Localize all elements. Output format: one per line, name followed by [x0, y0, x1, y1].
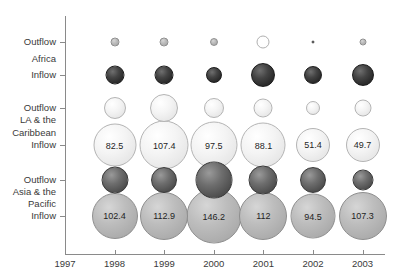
bubble-africa-outflow-1998	[110, 38, 119, 47]
y-axis-label-asia-inflow: Inflow	[31, 211, 56, 221]
bubble-la-the-caribbean-outflow-2003	[354, 100, 371, 117]
bubble-la-the-caribbean-inflow-2002: 51.4	[296, 128, 330, 162]
bubble-value-label: 97.5	[205, 140, 223, 150]
bubble-africa-outflow-1999	[160, 38, 169, 47]
bubble-asia-the-pacific-outflow-1998	[101, 167, 128, 194]
x-axis-tick	[164, 250, 165, 255]
bubble-asia-the-pacific-inflow-2003: 107.3	[339, 192, 387, 240]
x-axis-label-2001: 2001	[253, 258, 274, 269]
bubble-value-label: 112	[256, 211, 270, 221]
x-axis-tick	[115, 250, 116, 255]
region-label-lac-line1: LA & the	[20, 115, 56, 125]
bubble-asia-the-pacific-inflow-1999: 112.9	[140, 192, 188, 240]
bubble-asia-the-pacific-outflow-2000	[195, 162, 232, 199]
bubble-asia-the-pacific-inflow-2002: 94.5	[291, 194, 336, 239]
y-axis-tick	[60, 75, 65, 76]
region-label-africa: Africa	[32, 54, 56, 64]
x-axis-tick	[263, 250, 264, 255]
region-label-lac-line2: Caribbean	[12, 128, 56, 138]
bubble-africa-outflow-2002	[312, 41, 315, 44]
region-label-asia-line2: Pacific	[28, 199, 56, 209]
bubble-africa-inflow-2000	[206, 67, 222, 83]
y-axis-label-asia-outflow: Outflow	[24, 175, 56, 185]
bubble-asia-the-pacific-outflow-1999	[151, 167, 177, 193]
bubble-value-label: 102.4	[103, 211, 126, 221]
bubble-asia-the-pacific-inflow-1998: 102.4	[92, 193, 138, 239]
bubble-asia-the-pacific-outflow-2002	[300, 167, 326, 193]
x-axis-label-2000: 2000	[203, 258, 224, 269]
bubble-africa-inflow-2003	[352, 64, 374, 86]
x-axis-label-2003: 2003	[352, 258, 373, 269]
bubble-africa-inflow-1999	[155, 66, 174, 85]
y-axis-tick	[60, 108, 65, 109]
bubble-africa-inflow-1998	[105, 66, 124, 85]
bubble-la-the-caribbean-outflow-1998	[104, 97, 126, 119]
x-axis-tick	[214, 250, 215, 255]
y-axis-line	[65, 16, 66, 255]
region-label-asia-line1: Asia & the	[13, 187, 56, 197]
bubble-value-label: 88.1	[255, 140, 273, 150]
y-axis-tick	[60, 145, 65, 146]
bubble-value-label: 94.5	[304, 211, 322, 221]
x-axis-tick	[313, 250, 314, 255]
bubble-la-the-caribbean-outflow-2002	[306, 101, 320, 115]
bubble-value-label: 107.3	[351, 211, 374, 221]
bubble-africa-outflow-2003	[359, 39, 366, 46]
x-axis-label-1998: 1998	[104, 258, 125, 269]
bubble-value-label: 82.5	[106, 140, 124, 150]
y-axis-label-africa-outflow: Outflow	[24, 37, 56, 47]
bubble-africa-outflow-2000	[210, 38, 218, 46]
bubble-value-label: 112.9	[153, 211, 175, 221]
x-axis-tick	[363, 250, 364, 255]
x-axis-line	[65, 254, 385, 255]
y-axis-label-lac-inflow: Inflow	[31, 140, 56, 150]
y-axis-tick	[60, 216, 65, 217]
x-axis-tick	[65, 250, 66, 255]
x-axis-label-2002: 2002	[302, 258, 323, 269]
bubble-la-the-caribbean-outflow-2001	[254, 99, 273, 118]
x-axis-label-1999: 1999	[154, 258, 175, 269]
y-axis-tick	[60, 42, 65, 43]
bubble-asia-the-pacific-inflow-2001: 112	[239, 192, 287, 240]
bubble-value-label: 51.4	[304, 140, 322, 150]
bubble-la-the-caribbean-inflow-2003: 49.7	[346, 128, 380, 162]
bubble-asia-the-pacific-outflow-2003	[352, 170, 373, 191]
bubble-la-the-caribbean-inflow-2001: 88.1	[241, 123, 286, 168]
bubble-la-the-caribbean-inflow-1998: 82.5	[93, 124, 136, 167]
bubble-africa-outflow-2001	[257, 36, 270, 49]
bubble-africa-inflow-2001	[251, 63, 275, 87]
bubble-africa-inflow-2002	[304, 66, 322, 84]
bubble-la-the-caribbean-outflow-2000	[204, 98, 224, 118]
bubble-asia-the-pacific-outflow-2001	[249, 166, 278, 195]
bubble-la-the-caribbean-outflow-1999	[150, 94, 178, 122]
y-axis-tick	[60, 180, 65, 181]
y-axis-label-africa-inflow: Inflow	[31, 70, 56, 80]
bubble-value-label: 49.7	[354, 140, 372, 150]
bubble-chart: Outflow Africa Inflow Outflow LA & the C…	[0, 0, 399, 275]
bubble-value-label: 146.2	[203, 211, 226, 221]
bubble-value-label: 107.4	[153, 140, 176, 150]
x-axis-label-1997: 1997	[54, 258, 75, 269]
y-axis-label-lac-outflow: Outflow	[24, 103, 56, 113]
bubble-la-the-caribbean-inflow-1999: 107.4	[140, 121, 189, 170]
